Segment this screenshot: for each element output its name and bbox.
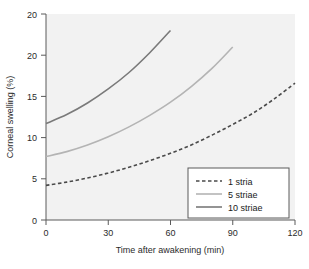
y-tick-label: 20 [27,10,37,20]
x-axis-ticks [46,220,295,225]
y-tick-label: 0 [32,216,37,226]
y-tick-label: 5 [32,174,37,184]
legend-label-10-striae: 10 striae [228,203,263,213]
legend-label-1-stria: 1 stria [228,177,253,187]
y-tick-label: 15 [27,92,37,102]
y-tick-label: 10 [27,133,37,143]
y-axis: 0 5 10 15 20 20 Corneal swelling (%) [5,10,46,226]
legend-label-5-striae: 5 striae [228,190,258,200]
x-tick-label: 60 [165,228,175,238]
line-chart: 0 5 10 15 20 20 Corneal swelling (%) 0 3… [0,0,309,269]
x-tick-label: 120 [287,228,302,238]
x-axis-tick-labels: 0 30 60 90 120 [43,228,302,238]
y-axis-title: Corneal swelling (%) [5,76,15,159]
y-axis-tick-labels: 0 5 10 15 20 20 [27,10,37,226]
x-axis: 0 30 60 90 120 Time after awakening (min… [43,220,302,255]
y-tick-label: 20 [27,51,37,61]
x-tick-label: 0 [43,228,48,238]
x-tick-label: 90 [228,228,238,238]
chart-figure: 0 5 10 15 20 20 Corneal swelling (%) 0 3… [0,0,309,269]
y-axis-ticks [41,14,46,220]
x-tick-label: 30 [103,228,113,238]
legend: 1 stria 5 striae 10 striae [188,168,289,218]
x-axis-title: Time after awakening (min) [116,245,225,255]
